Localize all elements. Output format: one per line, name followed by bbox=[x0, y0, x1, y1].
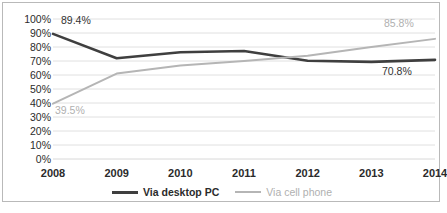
series-line bbox=[53, 34, 435, 62]
x-axis: 2008200920102011201220132014 bbox=[3, 163, 441, 185]
x-tick-label: 2012 bbox=[295, 167, 319, 179]
legend-swatch-icon-cell bbox=[235, 191, 261, 193]
data-label-desktop-2008: 89.4% bbox=[61, 14, 91, 26]
series-line bbox=[53, 39, 435, 104]
legend-item-cell[interactable]: Via cell phone bbox=[235, 186, 332, 198]
legend-label-desktop: Via desktop PC bbox=[143, 186, 219, 198]
series-lines bbox=[53, 34, 435, 104]
legend-label-cell: Via cell phone bbox=[266, 186, 332, 198]
legend: Via desktop PC Via cell phone bbox=[3, 183, 441, 201]
legend-swatch-icon-desktop bbox=[112, 191, 138, 194]
x-tick-label: 2009 bbox=[104, 167, 128, 179]
x-tick-label: 2010 bbox=[168, 167, 192, 179]
x-tick-label: 2013 bbox=[359, 167, 383, 179]
legend-item-desktop[interactable]: Via desktop PC bbox=[112, 186, 219, 198]
data-label-cell-2014: 85.8% bbox=[384, 17, 414, 29]
gridlines bbox=[53, 19, 435, 159]
data-label-cell-2008: 39.5% bbox=[55, 104, 85, 116]
x-tick-label: 2014 bbox=[423, 167, 447, 179]
chart-frame: 100% 90% 80% 70% 60% 50% 40% 30% 20% 10%… bbox=[2, 2, 440, 202]
x-tick-label: 2011 bbox=[232, 167, 256, 179]
x-tick-label: 2008 bbox=[41, 167, 65, 179]
data-label-desktop-2014: 70.8% bbox=[382, 65, 412, 77]
